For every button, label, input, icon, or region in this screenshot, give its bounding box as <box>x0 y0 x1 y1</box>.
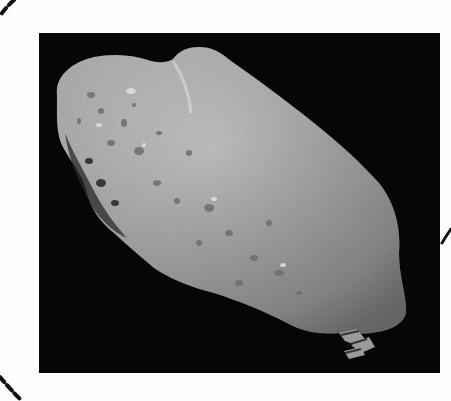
asteroid-photo <box>39 33 440 373</box>
document-page <box>0 0 451 401</box>
asteroid-image <box>39 33 440 373</box>
